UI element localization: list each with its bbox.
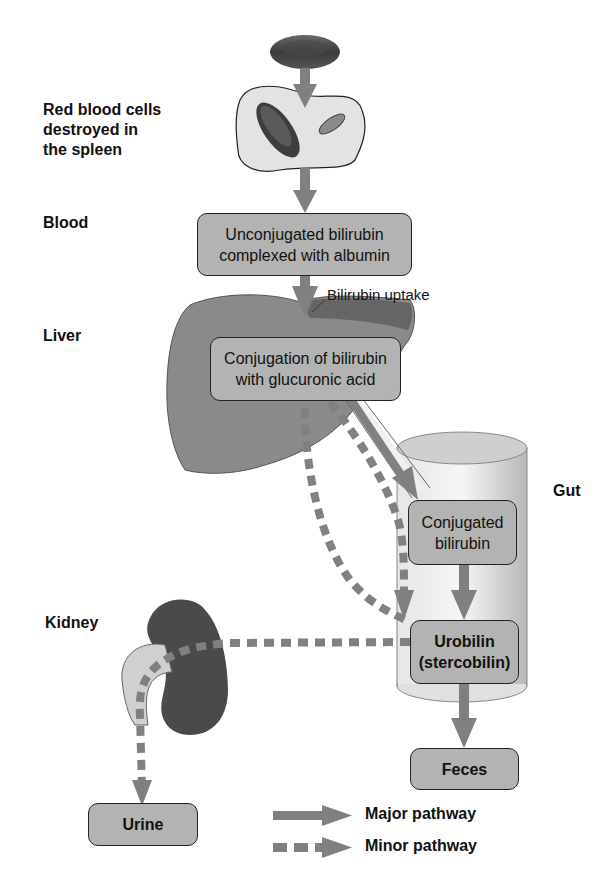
legend-minor-arrow-icon	[273, 837, 352, 858]
spleen-label: Red blood cells destroyed in the spleen	[43, 100, 161, 160]
spleen-icon	[236, 86, 365, 171]
red-blood-cell-icon	[270, 35, 340, 69]
unconjugated-bilirubin-box: Unconjugated bilirubin complexed with al…	[197, 213, 412, 276]
bilirubin-uptake-annotation: Bilirubin uptake	[327, 286, 430, 303]
urine-box: Urine	[88, 803, 198, 846]
legend-major-label: Major pathway	[365, 805, 476, 823]
gut-label: Gut	[553, 481, 581, 501]
legend-major-arrow-icon	[273, 805, 352, 826]
kidney-label: Kidney	[45, 613, 98, 633]
conjugated-bilirubin-box: Conjugated bilirubin	[408, 500, 517, 565]
urobilin-box: Urobilin (stercobilin)	[410, 620, 519, 684]
legend-minor-label: Minor pathway	[365, 837, 477, 855]
blood-label: Blood	[43, 213, 88, 233]
feces-box: Feces	[410, 748, 519, 790]
conjugation-box: Conjugation of bilirubin with glucuronic…	[210, 337, 401, 401]
liver-label: Liver	[43, 326, 81, 346]
